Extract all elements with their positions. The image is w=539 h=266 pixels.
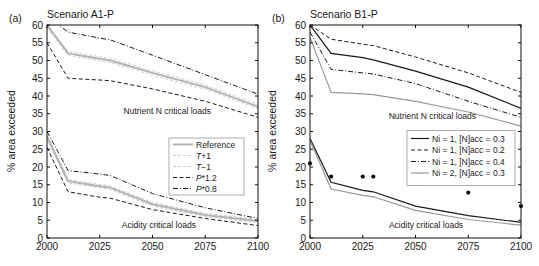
legend-entry-label: P*0.8 — [196, 184, 217, 194]
legend-entry-label: Ni = 1, [N]acc = 0.3 — [432, 134, 505, 144]
legend-entry-label: Ni = 1, [N]acc = 0.4 — [432, 157, 505, 167]
y-tick-label: 10 — [32, 197, 44, 208]
y-tick-label: 50 — [32, 55, 44, 66]
annotation-acidity-critical-loads: Acidity critical loads — [122, 220, 196, 230]
panel-a: 2000202520502075210005101520253035404550… — [32, 16, 270, 252]
y-tick-label: 60 — [295, 20, 307, 31]
y-tick-label: 5 — [300, 215, 306, 226]
y-tick-label: 20 — [295, 162, 307, 173]
x-tick-label: 2025 — [89, 241, 112, 252]
panel-b: 2000202520502075210005101520253035404550… — [295, 20, 533, 253]
legend-entry-label: P*1.2 — [196, 173, 217, 183]
y-tick-label: 5 — [37, 215, 43, 226]
x-tick-label: 2075 — [194, 241, 217, 252]
x-tick-label: 2075 — [457, 241, 480, 252]
legend-entry-label: T+1 — [196, 151, 211, 161]
panel-a-title: Scenario A1-P — [47, 8, 114, 20]
x-tick-label: 2050 — [404, 241, 427, 252]
panel-b-title: Scenario B1-P — [310, 8, 378, 20]
y-tick-label: 40 — [32, 91, 44, 102]
y-tick-label: 55 — [295, 37, 307, 48]
y-tick-label: 10 — [295, 197, 307, 208]
annotation-nutrient-n-critical-loads: Nutrient N critical loads — [124, 106, 211, 116]
x-tick-label: 2025 — [352, 241, 375, 252]
y-tick-label: 50 — [295, 55, 307, 66]
panel-a-tag: (a) — [9, 12, 22, 24]
annotation-nutrient-n-critical-loads: Nutrient N critical loads — [389, 111, 476, 121]
legend-entry-label: Ni = 2, [N]acc = 0.3 — [432, 168, 505, 178]
y-tick-label: 35 — [32, 108, 44, 119]
y-tick-label: 15 — [32, 179, 44, 190]
panel-b-tag: (b) — [272, 12, 285, 24]
y-tick-label: 25 — [295, 144, 307, 155]
y-tick-label: 40 — [295, 91, 307, 102]
y-tick-label: 0 — [37, 233, 43, 244]
annotation-acidity-critical-loads: Acidity critical loads — [389, 220, 463, 230]
legend-entry-label: Ni = 1, [N]acc = 0.2 — [432, 145, 505, 155]
observation-dot — [371, 174, 375, 178]
observation-dot — [361, 174, 365, 178]
series-line-reference-nutrient — [47, 25, 258, 107]
legend-entry-label: T−1 — [196, 162, 211, 172]
y-tick-label: 25 — [32, 144, 44, 155]
y-tick-label: 55 — [32, 37, 44, 48]
y-tick-label: 0 — [300, 233, 306, 244]
y-tick-label: 30 — [32, 126, 44, 137]
x-tick-label: 2100 — [510, 241, 533, 252]
series-line-ni-1-nacc-0-3-nutrient — [310, 25, 521, 108]
y-tick-label: 35 — [295, 108, 307, 119]
panel-a-y-axis-label: % area exceeded — [5, 66, 17, 196]
y-tick-label: 15 — [295, 179, 307, 190]
y-tick-label: 45 — [32, 73, 44, 84]
series-line-t-1-nutrient — [47, 25, 258, 105]
x-tick-label: 2050 — [141, 241, 164, 252]
legend-entry-label: Reference — [196, 140, 235, 150]
series-line-ni-1-nacc-0-2-nutrient — [310, 25, 521, 92]
y-tick-label: 20 — [32, 162, 44, 173]
observation-dot — [466, 190, 470, 194]
y-tick-label: 30 — [295, 126, 307, 137]
y-tick-label: 60 — [32, 20, 44, 31]
series-line-t-1-nutrient — [47, 28, 258, 109]
figure: 2000202520502075210005101520253035404550… — [0, 0, 539, 266]
series-line-ni-1-nacc-0-4-nutrient — [310, 32, 521, 117]
y-tick-label: 45 — [295, 73, 307, 84]
x-tick-label: 2100 — [247, 241, 270, 252]
observation-dot — [329, 174, 333, 178]
panel-b-y-axis-label: % area exceeded — [266, 66, 278, 196]
